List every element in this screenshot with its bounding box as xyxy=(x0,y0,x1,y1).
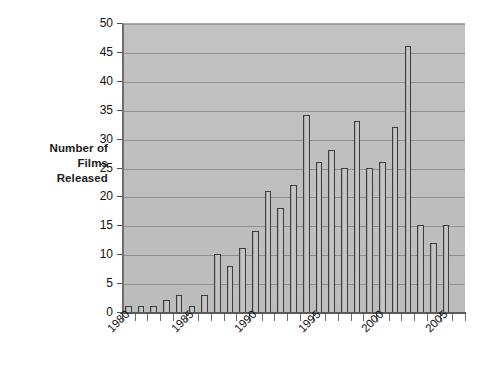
y-tick-label-40: 40 xyxy=(81,74,113,88)
y-tick-label-50: 50 xyxy=(81,16,113,30)
x-tick-mark-1 xyxy=(135,314,136,321)
bar-1987 xyxy=(214,254,221,312)
bar-1990 xyxy=(252,231,259,312)
y-tick-label-45: 45 xyxy=(81,45,113,59)
bar-1991 xyxy=(265,191,272,312)
bar-1995 xyxy=(316,162,323,312)
bar-1994 xyxy=(303,115,310,312)
bars-layer xyxy=(122,23,465,312)
bar-2002 xyxy=(405,46,412,312)
y-tick-label-30: 30 xyxy=(81,132,113,146)
bar-chart: Number of Films Released 051015202530354… xyxy=(0,0,487,367)
bar-2004 xyxy=(430,243,437,312)
x-tick-mark-23 xyxy=(414,314,415,321)
x-tick-mark-16 xyxy=(325,314,326,321)
bar-1993 xyxy=(290,185,297,312)
x-tick-mark-13 xyxy=(287,314,288,321)
x-tick-mark-7 xyxy=(211,314,212,321)
bar-1997 xyxy=(341,168,348,313)
x-tick-mark-21 xyxy=(389,314,390,321)
bar-1998 xyxy=(354,121,361,312)
y-tick-label-25: 25 xyxy=(81,161,113,175)
x-tick-mark-6 xyxy=(198,314,199,321)
bar-1999 xyxy=(366,168,373,313)
bar-2003 xyxy=(417,225,424,312)
x-tick-mark-11 xyxy=(262,314,263,321)
bar-1988 xyxy=(227,266,234,312)
x-tick-mark-17 xyxy=(338,314,339,321)
bar-2000 xyxy=(379,162,386,312)
y-tick-label-35: 35 xyxy=(81,103,113,117)
bar-1983 xyxy=(163,300,170,312)
y-tick-label-20: 20 xyxy=(81,189,113,203)
y-tick-label-5: 5 xyxy=(81,276,113,290)
y-tick-label-15: 15 xyxy=(81,218,113,232)
x-tick-mark-12 xyxy=(274,314,275,321)
bar-1996 xyxy=(328,150,335,312)
x-tick-mark-2 xyxy=(147,314,148,321)
y-tick-label-0: 0 xyxy=(81,305,113,319)
bar-1986 xyxy=(201,295,208,312)
x-tick-mark-18 xyxy=(351,314,352,321)
x-tick-mark-22 xyxy=(401,314,402,321)
y-tick-label-10: 10 xyxy=(81,247,113,261)
bar-1984 xyxy=(176,295,183,312)
bar-1989 xyxy=(239,248,246,312)
bar-1992 xyxy=(277,208,284,312)
bar-2001 xyxy=(392,127,399,312)
x-tick-mark-3 xyxy=(160,314,161,321)
x-tick-mark-27 xyxy=(465,314,466,321)
x-tick-mark-26 xyxy=(452,314,453,321)
x-tick-mark-8 xyxy=(224,314,225,321)
bar-2005 xyxy=(443,225,450,312)
